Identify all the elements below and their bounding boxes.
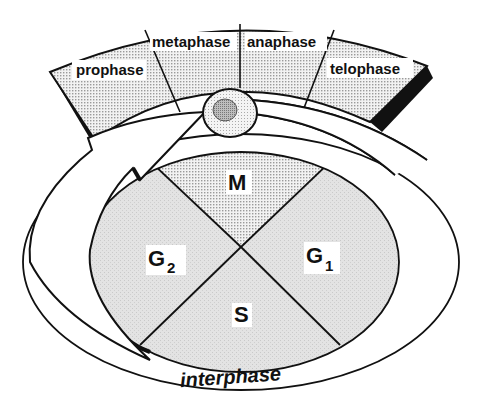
cell-icon xyxy=(203,89,257,137)
phase-label-anaphase: anaphase xyxy=(247,33,316,50)
cell-cycle-diagram: prophase metaphase anaphase telophase xyxy=(0,0,479,412)
phase-label-g1: G xyxy=(306,243,323,268)
phase-label-prophase: prophase xyxy=(76,61,144,78)
phase-label-g1-subscript: 1 xyxy=(325,257,333,274)
phase-label-m: M xyxy=(228,170,246,195)
phase-label-metaphase: metaphase xyxy=(152,33,230,50)
phase-label-s: S xyxy=(234,302,249,327)
phase-label-g2: G xyxy=(148,246,165,271)
nucleus xyxy=(213,99,237,121)
phase-label-g2-subscript: 2 xyxy=(167,259,175,276)
phase-label-telophase: telophase xyxy=(330,60,400,77)
